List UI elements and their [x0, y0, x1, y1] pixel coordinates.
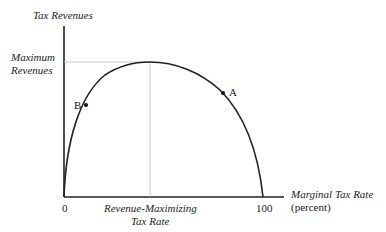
laffer-curve — [64, 62, 263, 197]
point-a-label: A — [229, 86, 237, 99]
max-revenues-label-1: Maximum — [11, 51, 55, 64]
max-revenues-label-2: Revenues — [11, 64, 53, 77]
x-tick-zero: 0 — [62, 202, 68, 215]
point-b-label: B — [74, 99, 81, 112]
y-axis-label: Tax Revenues — [33, 9, 93, 22]
point-b-marker — [84, 103, 88, 107]
x-axis-label-1: Marginal Tax Rate — [291, 188, 373, 201]
point-a-marker — [221, 91, 225, 95]
rev-max-label-1: Revenue-Maximizing — [104, 202, 197, 215]
x-axis-label-2: (percent) — [291, 201, 331, 214]
x-tick-hundred: 100 — [256, 202, 273, 215]
rev-max-label-2: Tax Rate — [131, 215, 169, 228]
